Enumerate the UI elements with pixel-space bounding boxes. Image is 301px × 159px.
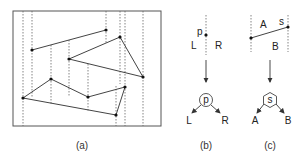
label-p: p xyxy=(197,26,203,37)
edge-left-icon xyxy=(192,105,201,113)
segment-endpoint-right xyxy=(286,25,289,28)
node-label-p: p xyxy=(203,94,209,105)
segment-s xyxy=(251,27,288,38)
label-L: L xyxy=(191,40,197,51)
edge-right-icon xyxy=(276,104,284,113)
child-R: R xyxy=(221,115,228,126)
segment-endpoint-left xyxy=(249,36,252,39)
child-B: B xyxy=(285,115,292,126)
point-p xyxy=(204,33,207,36)
caption-c: (c) xyxy=(264,140,276,151)
label-B: B xyxy=(272,41,279,52)
label-s: s xyxy=(279,16,284,27)
child-L: L xyxy=(186,115,192,126)
panel-a: (a) xyxy=(13,11,161,151)
panel-b: p L R p L R (b) xyxy=(186,15,228,151)
child-A: A xyxy=(252,115,259,126)
diagram-canvas: (a) p L R p L R (b) A s B s A B (c) xyxy=(0,0,301,159)
label-A: A xyxy=(260,19,267,30)
edge-right-icon xyxy=(211,105,220,113)
caption-b: (b) xyxy=(200,140,212,151)
node-label-s: s xyxy=(268,94,273,105)
caption-a: (a) xyxy=(76,140,88,151)
label-R: R xyxy=(215,40,222,51)
panel-c: A s B s A B (c) xyxy=(249,15,291,151)
bounding-box xyxy=(13,11,161,126)
edge-left-icon xyxy=(257,104,264,113)
